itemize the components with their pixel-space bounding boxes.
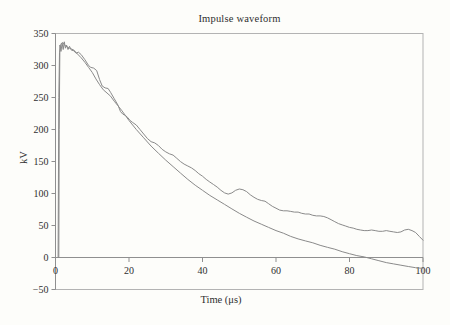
x-axis-label: Time (μs) xyxy=(56,294,386,305)
y-tick-label: 300 xyxy=(34,60,49,71)
x-tick-label: 60 xyxy=(271,265,281,276)
x-tick-label: 100 xyxy=(416,265,431,276)
x-tick-label: 80 xyxy=(345,265,355,276)
series-line-measured-oscillatory-trace xyxy=(59,42,423,258)
impulse-waveform-figure: Impulse waveform kV 35030025020015010050… xyxy=(0,0,450,325)
series-line-smooth-impulse-trace xyxy=(58,43,423,269)
x-tick-label: 40 xyxy=(198,265,208,276)
x-tick-label: 20 xyxy=(124,265,134,276)
plot-area: 350300250200150100500−50020406080100 xyxy=(0,0,450,325)
y-tick-label: −50 xyxy=(33,284,49,295)
plot-border xyxy=(56,34,424,290)
y-tick-label: 50 xyxy=(39,220,49,231)
y-tick-label: 350 xyxy=(34,28,49,39)
y-tick-label: 250 xyxy=(34,92,49,103)
y-tick-label: 200 xyxy=(34,124,49,135)
y-tick-label: 150 xyxy=(34,156,49,167)
x-tick-label: 0 xyxy=(53,265,58,276)
y-tick-label: 100 xyxy=(34,188,49,199)
y-tick-label: 0 xyxy=(44,252,49,263)
